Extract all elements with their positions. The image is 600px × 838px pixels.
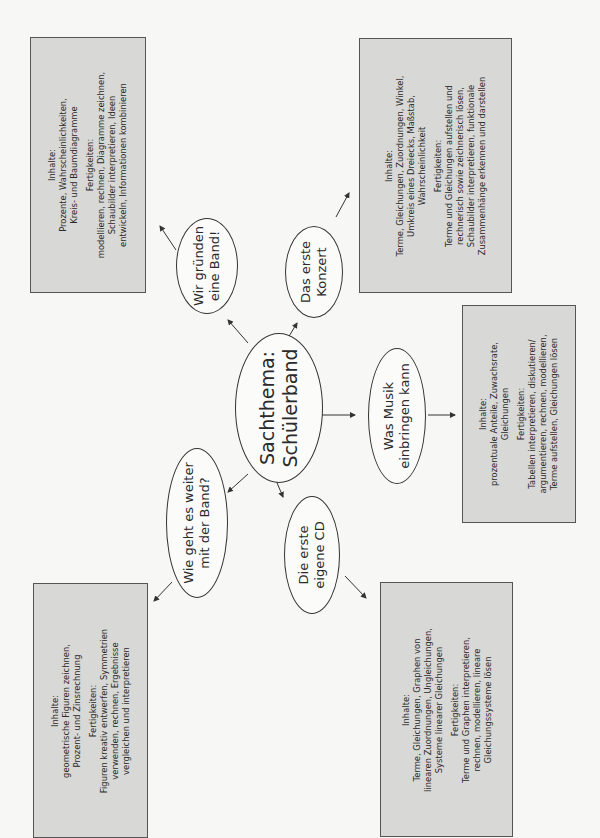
- fertigkeiten-label: Fertigkeiten:: [433, 75, 444, 256]
- inhalte-line: Terme, Gleichungen, Zuordnungen, Winkel,: [395, 75, 406, 256]
- inhalte-label: Inhalte:: [47, 72, 58, 259]
- topic-ellipse-cd: Die erste eigene CD: [284, 496, 340, 614]
- detail-box-band: Inhalte: Prozente, Wahrscheinlichkeiten,…: [30, 37, 146, 293]
- central-topic-line1: Sachthema:: [256, 348, 279, 467]
- fertigkeiten-line: rechnen, modellieren, lineare: [471, 628, 482, 792]
- topic-title-line: Wie geht es weiter: [181, 462, 197, 584]
- fertigkeiten-label: Fertigkeiten:: [449, 628, 460, 792]
- topic-title-line: Wir gründen: [191, 226, 207, 306]
- topic-ellipse-konzert: Das erste Konzert: [285, 226, 343, 318]
- inhalte-label: Inhalte:: [478, 334, 489, 493]
- topic-title-line: Das erste: [298, 241, 314, 303]
- topic-title-line: Konzert: [314, 241, 330, 303]
- fertigkeiten-line: modellieren, rechnen, Diagramme zeichnen…: [96, 72, 107, 259]
- detail-box-weiter: Inhalte: geometrische Figuren zeichnen, …: [33, 583, 148, 838]
- inhalte-label: Inhalte:: [400, 628, 411, 792]
- inhalte-label: Inhalte:: [384, 75, 395, 256]
- fertigkeiten-line: Terme und Graphen interpretieren,: [460, 628, 471, 792]
- fertigkeiten-line: Zusammenhänge erkennen und darstellen: [477, 75, 488, 256]
- topic-title-line: eigene CD: [312, 521, 328, 588]
- inhalte-line: prozentuale Anteile, Zuwachsrate,: [489, 334, 500, 493]
- topic-title-line: Was Musik: [381, 363, 397, 469]
- fertigkeiten-line: rechnerisch sowie zeichnerisch lösen,: [455, 75, 466, 256]
- topic-title-line: Die erste: [296, 521, 312, 588]
- fertigkeiten-line: Gleichungssysteme lösen: [482, 628, 493, 792]
- inhalte-line: Terme, Gleichungen, Graphen von: [411, 628, 422, 792]
- inhalte-line: Systeme linearer Gleichungen: [433, 628, 444, 792]
- inhalte-line: Prozente, Wahrscheinlichkeiten,: [58, 72, 69, 259]
- detail-box-konzert: Inhalte: Terme, Gleichungen, Zuordnungen…: [359, 38, 512, 293]
- fertigkeiten-line: Figuren kreativ entwerfen, Symmetrien: [99, 628, 110, 792]
- fertigkeiten-line: Terme aufstellen, Gleichungen lösen: [549, 334, 560, 493]
- fertigkeiten-label: Fertigkeiten:: [88, 628, 99, 792]
- fertigkeiten-label: Fertigkeiten:: [516, 334, 527, 493]
- inhalte-line: Kreis- und Baumdiagramme: [69, 72, 80, 259]
- inhalte-line: geometrische Figuren zeichnen,: [61, 628, 72, 792]
- topic-title-line: eine Band!: [207, 226, 223, 306]
- inhalte-line: linearen Zuordnungen, Ungleichungen,: [422, 628, 433, 792]
- inhalte-line: Wahrscheinlichkeit: [417, 75, 428, 256]
- inhalte-line: Prozent- und Zinsrechnung: [72, 628, 83, 792]
- topic-title-line: einbringen kann: [397, 363, 413, 469]
- inhalte-line: Umkreis eines Dreiecks, Maßstab,: [406, 75, 417, 256]
- topic-ellipse-musik: Was Musik einbringen kann: [368, 348, 426, 484]
- detail-box-cd: Inhalte: Terme, Gleichungen, Graphen von…: [380, 582, 513, 837]
- fertigkeiten-line: Schaubilder interpretieren, funktionale: [466, 75, 477, 256]
- topic-title-line: mit der Band?: [197, 462, 213, 584]
- fertigkeiten-line: Schaubilder interpretieren, Ideen: [107, 72, 118, 259]
- fertigkeiten-line: Terme und Gleichungen aufstellen und: [444, 75, 455, 256]
- fertigkeiten-line: Tabellen interpretieren, diskutieren/: [527, 334, 538, 493]
- inhalte-label: Inhalte:: [50, 628, 61, 792]
- fertigkeiten-line: vergleichen und interpretieren: [121, 628, 132, 792]
- detail-box-musik: Inhalte: prozentuale Anteile, Zuwachsrat…: [462, 305, 576, 523]
- inhalte-line: Gleichungen: [500, 334, 511, 493]
- central-topic-ellipse: Sachthema: Schülerband: [235, 333, 323, 483]
- fertigkeiten-line: verwenden, rechnen, Ergebnisse: [110, 628, 121, 792]
- central-topic-line2: Schülerband: [279, 348, 302, 467]
- fertigkeiten-line: argumentieren, rechnen, modellieren,: [538, 334, 549, 493]
- topic-ellipse-band: Wir gründen eine Band!: [176, 218, 238, 314]
- topic-ellipse-weiter: Wie geht es weiter mit der Band?: [166, 448, 228, 598]
- fertigkeiten-line: entwickeln, Informationen kombinieren: [118, 72, 129, 259]
- fertigkeiten-label: Fertigkeiten:: [85, 72, 96, 259]
